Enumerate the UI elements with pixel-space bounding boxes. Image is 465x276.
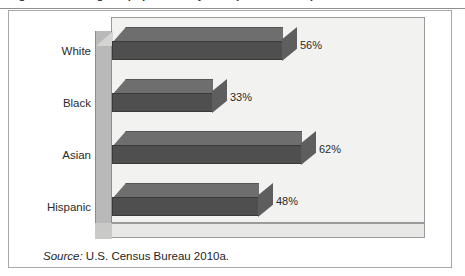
bar-value-label: 56% xyxy=(300,39,322,51)
bar-end-cap xyxy=(301,131,316,165)
bar-end-cap xyxy=(258,183,273,217)
category-label-black: Black xyxy=(63,97,91,109)
bar-black: 33% xyxy=(112,79,233,119)
bar-front-face xyxy=(112,41,283,60)
bar-end-cap xyxy=(212,79,227,113)
chart-wall-bevel xyxy=(96,31,113,46)
bar-value-label: 48% xyxy=(276,195,298,207)
bar-asian: 62% xyxy=(112,131,322,171)
bar-value-label: 33% xyxy=(230,91,252,103)
figure-caption-text: Figure Percentage of population by race … xyxy=(8,0,314,1)
source-text: U.S. Census Bureau 2010a. xyxy=(83,250,229,262)
source-note: Source: U.S. Census Bureau 2010a. xyxy=(43,250,229,262)
bar-value-label: 62% xyxy=(319,143,341,155)
bar-front-face xyxy=(112,197,259,216)
caption-divider xyxy=(0,8,465,9)
bar-end-cap xyxy=(282,27,297,61)
bar-hispanic: 48% xyxy=(112,183,279,223)
chart-floor-front xyxy=(95,223,112,239)
category-label-hispanic: Hispanic xyxy=(47,201,91,213)
bar-front-face xyxy=(112,93,213,112)
category-label-asian: Asian xyxy=(62,149,91,161)
category-label-white: White xyxy=(62,45,91,57)
category-axis-labels: WhiteBlackAsianHispanic xyxy=(9,17,93,239)
figure-box: WhiteBlackAsianHispanic 56%33%62%48% Sou… xyxy=(8,10,452,268)
chart-left-wall xyxy=(95,31,112,237)
chart-plot-area: 56%33%62%48% xyxy=(95,17,425,239)
bar-front-face xyxy=(112,145,302,164)
source-label: Source: xyxy=(43,250,83,262)
chart-floor xyxy=(95,223,425,238)
bar-white: 56% xyxy=(112,27,303,67)
